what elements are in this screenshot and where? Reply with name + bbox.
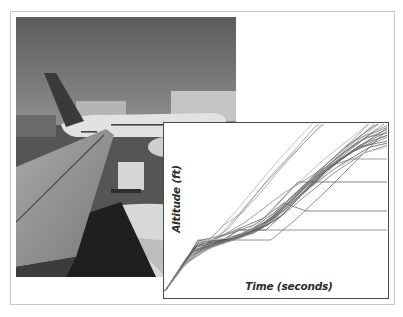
trajectory-line	[165, 143, 387, 291]
y-axis-label: Altitude (ft)	[170, 149, 182, 249]
trajectory-line	[165, 129, 387, 291]
x-axis-label: Time (seconds)	[224, 280, 354, 292]
trajectory-line	[165, 124, 369, 291]
trajectory-line	[165, 124, 322, 291]
trajectory-line	[165, 128, 387, 291]
trajectory-line	[165, 159, 387, 291]
trajectory-line	[165, 182, 387, 291]
altitude-time-chart: Altitude (ft) Time (seconds)	[163, 122, 389, 299]
chart-plot-area	[164, 123, 387, 297]
trajectory-line	[165, 124, 324, 291]
